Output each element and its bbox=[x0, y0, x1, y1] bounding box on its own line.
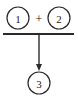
arrow-head-icon bbox=[36, 64, 42, 71]
node-input-2-label: 2 bbox=[56, 13, 62, 25]
node-output-3-label: 3 bbox=[36, 78, 42, 90]
diagram-canvas: 1 + 2 3 bbox=[0, 0, 78, 97]
node-input-1-label: 1 bbox=[15, 13, 21, 25]
plus-operator-label: + bbox=[36, 12, 43, 26]
diagram-graphic: 1 + 2 3 bbox=[0, 0, 78, 97]
